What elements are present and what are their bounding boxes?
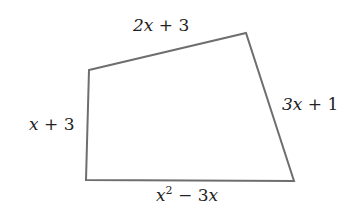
bottom-exp: 2 (166, 184, 173, 197)
bottom-rest: − 3 (173, 185, 209, 205)
right-rest: + 1 (302, 94, 338, 114)
left-side-label: x + 3 (29, 114, 74, 134)
right-side-label: 3x + 1 (282, 94, 338, 114)
top-side-label: 2x + 3 (133, 15, 189, 35)
bottom-var2: x (208, 185, 218, 205)
top-var: 2x (133, 15, 153, 35)
top-rest: + 3 (153, 15, 189, 35)
right-var: 3x (282, 94, 302, 114)
bottom-base: x (156, 185, 166, 205)
bottom-side-label: x2 − 3x (156, 184, 218, 205)
left-var: x (29, 114, 39, 134)
left-rest: + 3 (39, 114, 75, 134)
